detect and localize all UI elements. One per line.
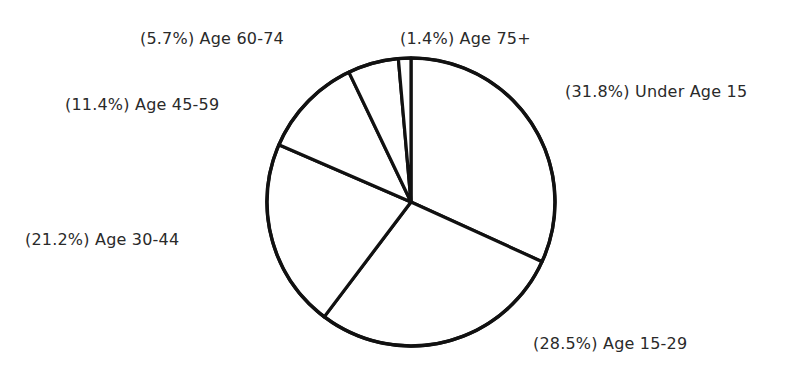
label-15-29: (28.5%) Age 15-29 [533,334,687,353]
label-60-74: (5.7%) Age 60-74 [140,29,284,48]
label-45-59: (11.4%) Age 45-59 [65,95,219,114]
label-75-plus: (1.4%) Age 75+ [400,29,531,48]
label-under-15: (31.8%) Under Age 15 [565,82,747,101]
label-30-44: (21.2%) Age 30-44 [25,230,179,249]
pie-chart: (31.8%) Under Age 15 (28.5%) Age 15-29 (… [0,0,799,378]
